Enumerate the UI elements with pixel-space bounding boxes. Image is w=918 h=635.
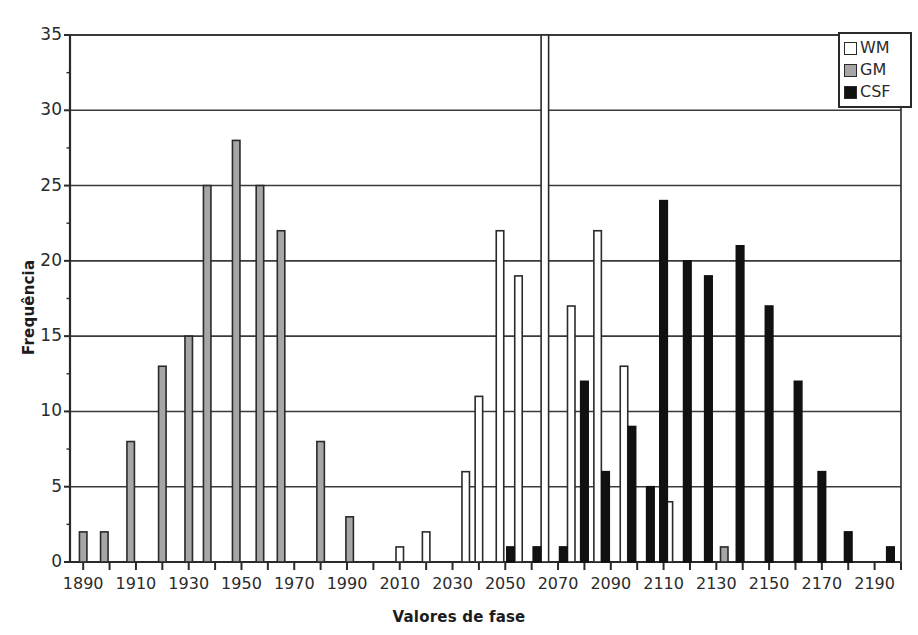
legend-item-wm[interactable]: WM — [844, 37, 904, 59]
y-tick-label: 30 — [22, 99, 62, 119]
x-tick-label: 1990 — [317, 574, 377, 593]
bar-gm — [256, 186, 264, 562]
legend-swatch-icon — [844, 64, 857, 77]
bar-csf — [705, 276, 713, 562]
bar-csf — [660, 201, 668, 562]
bar-gm — [277, 231, 285, 562]
legend-label: CSF — [860, 84, 891, 100]
bar-wm — [496, 231, 504, 562]
bar-csf — [765, 306, 773, 562]
legend-label: WM — [860, 40, 890, 56]
y-tick-label: 10 — [22, 400, 62, 420]
legend-label: GM — [860, 62, 886, 78]
bar-csf — [844, 532, 852, 562]
bar-gm — [79, 532, 87, 562]
x-tick-label: 2090 — [581, 574, 641, 593]
x-tick-label: 1890 — [53, 574, 113, 593]
bar-csf — [887, 547, 895, 562]
bar-gm — [185, 336, 193, 562]
bar-wm — [422, 532, 430, 562]
legend-swatch-icon — [844, 42, 857, 55]
legend-item-gm[interactable]: GM — [844, 59, 904, 81]
bar-csf — [736, 246, 744, 562]
chart-canvas — [0, 0, 918, 635]
bar-csf — [818, 472, 826, 562]
x-tick-label: 2070 — [528, 574, 588, 593]
bar-gm — [721, 547, 729, 562]
bar-wm — [620, 366, 628, 562]
bar-wm — [515, 276, 523, 562]
frequency-histogram-figure: Frequência Valores de fase 0510152025303… — [0, 0, 918, 635]
y-tick-label: 35 — [22, 24, 62, 44]
bar-gm — [317, 442, 325, 562]
bar-csf — [560, 547, 568, 562]
x-tick-label: 2010 — [370, 574, 430, 593]
bar-gm — [127, 442, 134, 562]
bar-csf — [602, 472, 610, 562]
bar-wm — [567, 306, 575, 562]
bar-gm — [232, 140, 240, 562]
legend-swatch-icon — [844, 86, 857, 99]
bar-csf — [794, 381, 802, 562]
bars-layer — [79, 35, 894, 562]
bar-gm — [346, 517, 354, 562]
bar-wm — [462, 472, 470, 562]
bar-csf — [684, 261, 692, 562]
bar-csf — [507, 547, 515, 562]
x-tick-label: 2130 — [686, 574, 746, 593]
x-tick-label: 2150 — [739, 574, 799, 593]
y-tick-label: 25 — [22, 175, 62, 195]
bar-gm — [101, 532, 109, 562]
y-tick-label: 15 — [22, 325, 62, 345]
bar-csf — [628, 426, 636, 562]
x-tick-label: 2110 — [634, 574, 694, 593]
x-tick-label: 1950 — [211, 574, 271, 593]
bar-csf — [647, 487, 655, 562]
bar-wm — [541, 35, 549, 562]
x-tick-label: 1930 — [159, 574, 219, 593]
bar-wm — [396, 547, 404, 562]
x-tick-label: 2190 — [845, 574, 905, 593]
x-tick-label: 2050 — [475, 574, 535, 593]
y-tick-label: 5 — [22, 476, 62, 496]
x-tick-label: 2030 — [423, 574, 483, 593]
x-tick-label: 2170 — [792, 574, 852, 593]
y-tick-label: 20 — [22, 250, 62, 270]
legend: WMGMCSF — [838, 32, 912, 108]
legend-item-csf[interactable]: CSF — [844, 81, 904, 103]
x-tick-label: 1970 — [264, 574, 324, 593]
bar-wm — [594, 231, 602, 562]
bar-gm — [159, 366, 167, 562]
bar-wm — [475, 396, 483, 562]
bar-csf — [581, 381, 589, 562]
bar-csf — [533, 547, 541, 562]
x-axis-title: Valores de fase — [0, 608, 918, 626]
x-tick-label: 1910 — [106, 574, 166, 593]
bar-gm — [203, 186, 211, 562]
y-tick-label: 0 — [22, 551, 62, 571]
